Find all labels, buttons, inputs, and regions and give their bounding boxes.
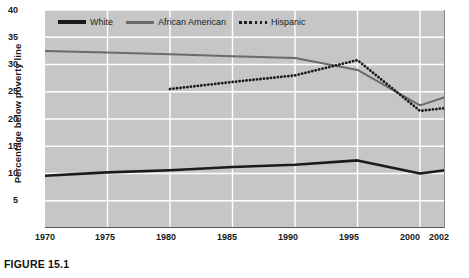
series-line-hispanic	[170, 60, 445, 111]
legend-label-hispanic: Hispanic	[271, 17, 306, 27]
y-tick-label-15: 15	[0, 142, 18, 151]
y-tick-label-40: 40	[0, 6, 18, 15]
x-tick-label-1975: 1975	[85, 232, 125, 242]
plot-area	[45, 10, 445, 228]
legend-label-white: White	[90, 17, 113, 27]
figure-container: Percentage below poverty line 40 35 30 2…	[0, 0, 469, 278]
y-tick-label-35: 35	[0, 33, 18, 42]
x-tick-label-1970: 1970	[25, 232, 65, 242]
x-tick-label-1985: 1985	[207, 232, 247, 242]
legend-swatch-african-american-line-icon	[126, 21, 154, 24]
legend-item-african-american: African American	[126, 17, 226, 27]
legend-label-african-american: African American	[158, 17, 226, 27]
y-tick-label-5: 5	[0, 196, 18, 205]
y-tick-label-20: 20	[0, 115, 18, 124]
figure-caption: FIGURE 15.1	[4, 258, 69, 270]
y-tick-label-30: 30	[0, 60, 18, 69]
chart-legend: White African American Hispanic	[58, 17, 306, 27]
legend-item-hispanic: Hispanic	[239, 17, 306, 27]
x-tick-label-2002: 2002	[419, 232, 459, 242]
legend-item-white: White	[58, 17, 113, 27]
x-tick-label-1995: 1995	[329, 232, 369, 242]
x-tick-label-1980: 1980	[146, 232, 186, 242]
y-tick-label-25: 25	[0, 87, 18, 96]
legend-swatch-white-line-icon	[58, 20, 86, 24]
y-tick-label-10: 10	[0, 169, 18, 178]
x-tick-label-1990: 1990	[268, 232, 308, 242]
legend-swatch-hispanic-dotted-line-icon	[239, 21, 267, 24]
chart-canvas	[45, 10, 445, 228]
series-line-african-american	[45, 51, 445, 105]
